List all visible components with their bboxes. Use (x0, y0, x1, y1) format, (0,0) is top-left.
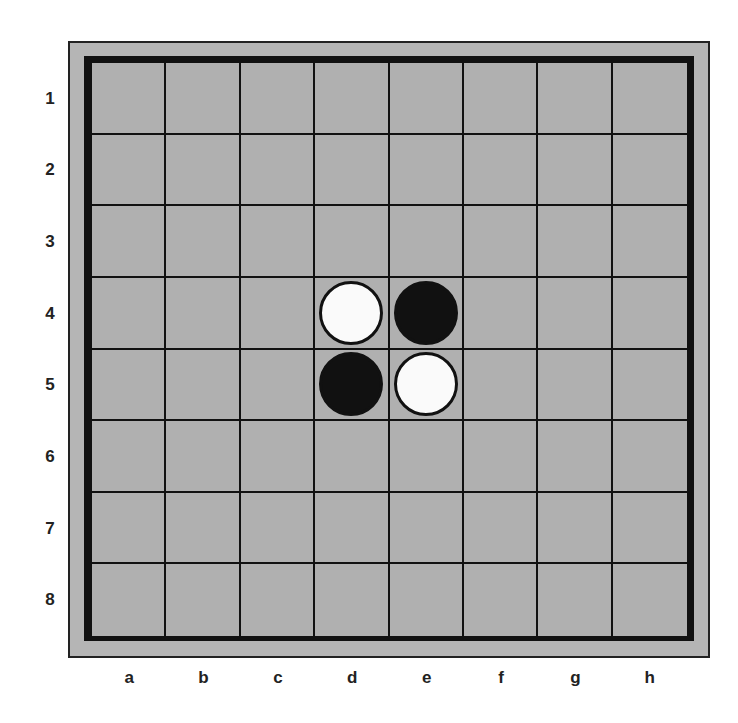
square-b3[interactable] (166, 206, 240, 278)
square-f1[interactable] (464, 63, 538, 135)
square-e2[interactable] (390, 135, 464, 207)
square-h5[interactable] (613, 350, 687, 422)
black-disc-icon (394, 281, 458, 345)
square-a7[interactable] (92, 493, 166, 565)
square-d6[interactable] (315, 421, 389, 493)
square-a8[interactable] (92, 564, 166, 636)
square-h7[interactable] (613, 493, 687, 565)
square-b4[interactable] (166, 278, 240, 350)
square-g7[interactable] (538, 493, 612, 565)
square-b7[interactable] (166, 493, 240, 565)
square-h4[interactable] (613, 278, 687, 350)
square-a3[interactable] (92, 206, 166, 278)
square-e4[interactable] (390, 278, 464, 350)
white-disc-icon (319, 281, 383, 345)
column-label-c: c (263, 668, 293, 688)
square-d3[interactable] (315, 206, 389, 278)
row-label-8: 8 (40, 590, 60, 610)
white-disc-icon (394, 352, 458, 416)
square-g6[interactable] (538, 421, 612, 493)
square-f5[interactable] (464, 350, 538, 422)
square-d1[interactable] (315, 63, 389, 135)
square-c5[interactable] (241, 350, 315, 422)
row-label-6: 6 (40, 447, 60, 467)
square-c3[interactable] (241, 206, 315, 278)
square-a6[interactable] (92, 421, 166, 493)
square-b6[interactable] (166, 421, 240, 493)
square-g3[interactable] (538, 206, 612, 278)
square-b8[interactable] (166, 564, 240, 636)
square-f4[interactable] (464, 278, 538, 350)
square-c6[interactable] (241, 421, 315, 493)
square-b1[interactable] (166, 63, 240, 135)
square-h2[interactable] (613, 135, 687, 207)
square-g8[interactable] (538, 564, 612, 636)
column-label-f: f (486, 668, 516, 688)
square-e5[interactable] (390, 350, 464, 422)
column-label-d: d (337, 668, 367, 688)
row-label-2: 2 (40, 160, 60, 180)
square-g4[interactable] (538, 278, 612, 350)
square-g2[interactable] (538, 135, 612, 207)
square-a1[interactable] (92, 63, 166, 135)
square-f2[interactable] (464, 135, 538, 207)
square-a4[interactable] (92, 278, 166, 350)
square-h3[interactable] (613, 206, 687, 278)
square-f3[interactable] (464, 206, 538, 278)
square-h1[interactable] (613, 63, 687, 135)
square-e6[interactable] (390, 421, 464, 493)
row-label-1: 1 (40, 89, 60, 109)
square-c1[interactable] (241, 63, 315, 135)
square-d5[interactable] (315, 350, 389, 422)
square-f7[interactable] (464, 493, 538, 565)
square-h8[interactable] (613, 564, 687, 636)
square-b2[interactable] (166, 135, 240, 207)
column-label-b: b (189, 668, 219, 688)
square-b5[interactable] (166, 350, 240, 422)
square-a2[interactable] (92, 135, 166, 207)
square-e7[interactable] (390, 493, 464, 565)
square-d7[interactable] (315, 493, 389, 565)
row-label-3: 3 (40, 232, 60, 252)
black-disc-icon (319, 352, 383, 416)
square-c8[interactable] (241, 564, 315, 636)
column-label-g: g (560, 668, 590, 688)
square-e3[interactable] (390, 206, 464, 278)
square-g1[interactable] (538, 63, 612, 135)
column-label-h: h (635, 668, 665, 688)
square-c4[interactable] (241, 278, 315, 350)
row-label-7: 7 (40, 519, 60, 539)
square-c2[interactable] (241, 135, 315, 207)
square-c7[interactable] (241, 493, 315, 565)
square-f6[interactable] (464, 421, 538, 493)
square-d4[interactable] (315, 278, 389, 350)
square-d8[interactable] (315, 564, 389, 636)
row-label-4: 4 (40, 304, 60, 324)
column-label-e: e (412, 668, 442, 688)
square-a5[interactable] (92, 350, 166, 422)
square-d2[interactable] (315, 135, 389, 207)
square-e1[interactable] (390, 63, 464, 135)
square-f8[interactable] (464, 564, 538, 636)
square-e8[interactable] (390, 564, 464, 636)
row-label-5: 5 (40, 375, 60, 395)
column-label-a: a (114, 668, 144, 688)
othello-board (92, 63, 687, 636)
square-h6[interactable] (613, 421, 687, 493)
square-g5[interactable] (538, 350, 612, 422)
